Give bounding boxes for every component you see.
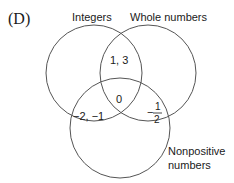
venn-diagram: (D) Integers Whole numbers Nonpositive n… [0, 0, 234, 183]
option-label: (D) [8, 10, 30, 28]
nonpositive-label-line1: Nonpositive [168, 145, 225, 157]
whole-numbers-label: Whole numbers [130, 11, 208, 23]
nonpositive-label-line2: numbers [168, 159, 211, 171]
fraction-numerator: 1 [155, 101, 161, 112]
region-all-three: 0 [116, 93, 122, 105]
integers-circle [46, 25, 142, 121]
region-integers-whole: 1, 3 [110, 54, 128, 66]
fraction-sign: − [147, 106, 153, 118]
region-integers-nonpositive: −2, −1 [73, 110, 104, 122]
integers-label: Integers [72, 11, 112, 23]
fraction-denominator: 2 [154, 114, 160, 125]
